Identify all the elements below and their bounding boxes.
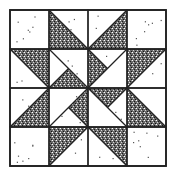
quilt-block-figure <box>0 0 174 179</box>
seam-lines <box>10 10 166 166</box>
